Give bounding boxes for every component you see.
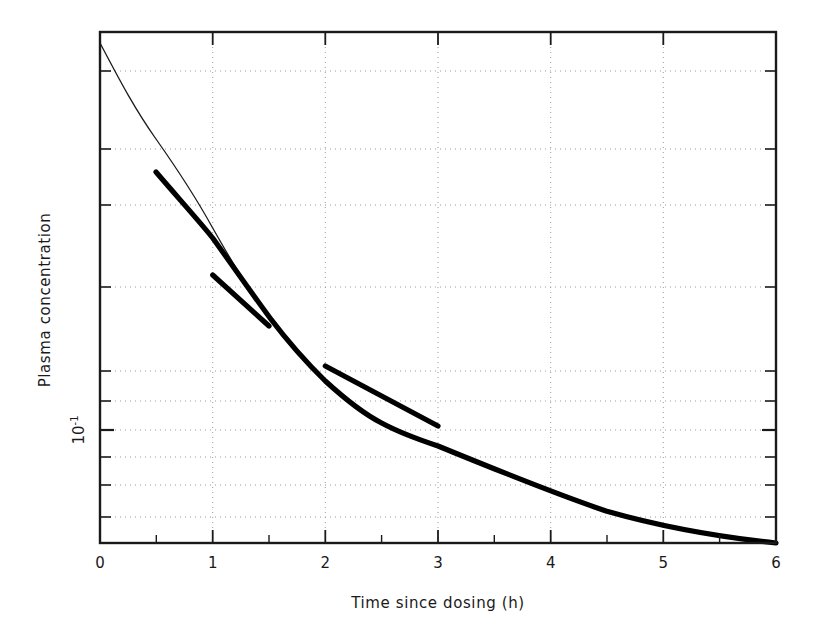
- y-tick-label-exponent: -1: [69, 415, 80, 425]
- y-tick-label-base: 10: [70, 425, 88, 444]
- y-axis-title: Plasma concentration: [36, 213, 54, 388]
- x-tick-label-5: 5: [659, 554, 669, 572]
- y-tick-label-group: 10-1: [69, 415, 88, 444]
- y-axis-title-group: Plasma concentration: [36, 213, 54, 388]
- x-tick-label-2: 2: [321, 554, 331, 572]
- x-tick-label-3: 3: [433, 554, 443, 572]
- x-tick-label-4: 4: [546, 554, 556, 572]
- x-axis-title: Time since dosing (h): [350, 594, 525, 612]
- semilog-plasma-concentration-chart: 0 1 2 3 4 5 6 10-1 Plasma concentration …: [0, 0, 818, 634]
- chart-canvas: 0 1 2 3 4 5 6 10-1 Plasma concentration …: [0, 0, 818, 634]
- x-tick-label-0: 0: [95, 554, 105, 572]
- x-tick-labels: 0 1 2 3 4 5 6: [95, 554, 781, 572]
- x-tick-label-6: 6: [771, 554, 781, 572]
- x-tick-label-1: 1: [208, 554, 218, 572]
- y-tick-label-10e-1: 10-1: [69, 415, 88, 444]
